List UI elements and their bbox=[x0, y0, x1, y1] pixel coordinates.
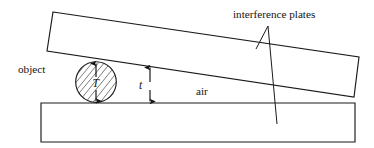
interference-plates-label: interference plates bbox=[233, 8, 315, 20]
dimension-t-label: t bbox=[139, 79, 143, 91]
optics-diagram-figure: T t object air interference plates bbox=[0, 0, 374, 148]
dimension-t: t bbox=[139, 68, 150, 102]
lower-interference-plate bbox=[41, 103, 355, 142]
air-label: air bbox=[196, 85, 208, 97]
diagram-canvas: T t object air interference plates bbox=[0, 0, 374, 148]
object-label: object bbox=[18, 63, 46, 75]
